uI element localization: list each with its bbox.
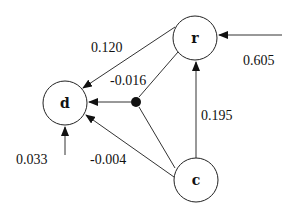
node-c: c (174, 158, 218, 202)
edge-c-to-d (86, 115, 174, 177)
label-c-to-d: -0.004 (90, 152, 126, 167)
node-d: d (43, 81, 87, 125)
label-junction-to-d: -0.016 (110, 73, 146, 88)
node-d-label: d (60, 95, 70, 111)
junction-dot (131, 97, 141, 107)
node-r-label: r (191, 30, 199, 46)
label-c-to-r: 0.195 (201, 108, 233, 123)
edge-junction-to-c (139, 107, 175, 168)
node-r: r (173, 16, 217, 60)
label-external-to-d: 0.033 (16, 152, 48, 167)
node-c-label: c (192, 172, 201, 188)
label-r-to-d: 0.120 (91, 40, 123, 55)
path-diagram: d r c 0.120 -0.016 0.605 0.195 0.033 -0.… (0, 0, 294, 214)
label-external-to-r: 0.605 (243, 53, 275, 68)
